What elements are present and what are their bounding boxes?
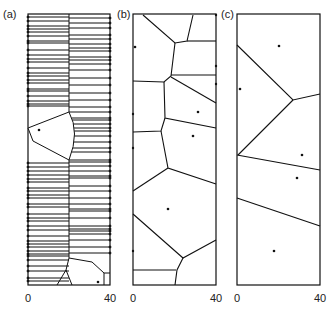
panel-a-label: (a) <box>3 8 16 20</box>
panel-b: (b) 0 40 <box>117 8 222 304</box>
panel-c-tick-0: 0 <box>234 292 240 304</box>
panel-b-tick-40: 40 <box>210 292 222 304</box>
panel-a: (a) 0 40 <box>3 8 116 304</box>
voronoi-figure: (a) 0 40 (b) 0 40 ( <box>0 0 333 314</box>
panel-a-tick-0: 0 <box>25 292 31 304</box>
panel-c: (c) 0 40 <box>221 8 326 304</box>
panel-c-label: (c) <box>221 8 234 20</box>
panel-c-tick-40: 40 <box>314 292 326 304</box>
panel-b-label: (b) <box>117 8 130 20</box>
panel-b-tick-0: 0 <box>130 292 136 304</box>
panel-a-tick-40: 40 <box>104 292 116 304</box>
